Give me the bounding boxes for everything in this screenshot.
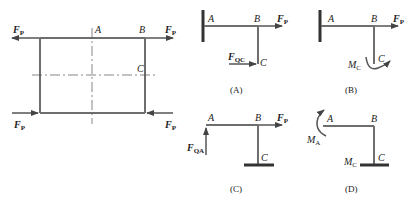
caption-c: (C) [230, 184, 242, 194]
label-mc: MC [347, 59, 361, 72]
option-a-diagram: A B C FP FQC (A) [203, 10, 289, 95]
label-fp: FP [392, 13, 405, 26]
label-fp: FP [276, 112, 289, 125]
label-a: A [327, 13, 335, 24]
label-fp-top-right: FP [164, 24, 177, 37]
option-c-diagram: A B C FP FQA (C) [186, 112, 289, 194]
label-fqa: FQA [186, 142, 204, 155]
label-a: A [326, 113, 334, 124]
label-fp-bottom-right: FP [164, 119, 177, 132]
label-b: B [254, 13, 260, 24]
label-fp-bottom-left: FP [13, 119, 26, 132]
label-fp-top-left: FP [12, 24, 25, 37]
caption-b: (B) [345, 85, 357, 95]
option-b-diagram: A B C FP MC (B) [320, 10, 405, 95]
main-frame: FP FP FP FP A B C [12, 24, 177, 132]
label-a: A [207, 112, 215, 123]
label-c: C [378, 152, 385, 163]
label-fp: FP [276, 13, 289, 26]
label-b: B [255, 112, 261, 123]
label-a: A [207, 13, 215, 24]
label-point-b: B [139, 24, 145, 35]
label-c: C [260, 57, 267, 68]
label-b: B [371, 13, 377, 24]
caption-a: (A) [230, 85, 243, 95]
label-mc: MC [343, 156, 357, 169]
label-b: B [371, 113, 377, 124]
label-c: C [261, 152, 268, 163]
label-point-c: C [137, 63, 144, 74]
label-point-a: A [94, 24, 102, 35]
caption-d: (D) [345, 184, 358, 194]
label-ma: MA [306, 134, 320, 147]
label-c: C [378, 53, 385, 64]
label-fqc: FQC [227, 51, 245, 64]
option-d-diagram: A B C MA MC (D) [306, 110, 389, 194]
structural-diagram: FP FP FP FP A B C A B C FP FQC (A) A B C… [0, 0, 413, 200]
moment-arrow-ma [317, 110, 326, 136]
